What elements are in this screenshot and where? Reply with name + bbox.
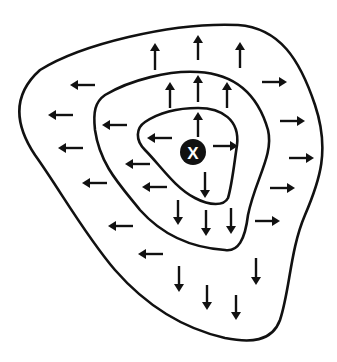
- arrow-down-icon: [173, 200, 183, 225]
- arrow-left-icon: [70, 80, 95, 90]
- arrow-up-icon: [193, 75, 203, 102]
- contour-diagram: X: [0, 0, 337, 362]
- arrow-down-icon: [251, 258, 261, 285]
- arrow-left-icon: [147, 133, 172, 143]
- arrow-left-icon: [102, 120, 127, 130]
- arrow-down-icon: [200, 172, 210, 198]
- arrow-down-icon: [202, 285, 212, 310]
- arrow-down-icon: [201, 210, 211, 236]
- arrow-up-icon: [193, 35, 203, 60]
- arrow-right-icon: [280, 116, 305, 126]
- arrow-right-icon: [213, 141, 238, 151]
- arrow-down-icon: [174, 266, 184, 292]
- arrow-down-icon: [231, 295, 241, 320]
- arrow-left-icon: [58, 143, 83, 153]
- middle-contour: [94, 72, 269, 250]
- arrow-up-icon: [193, 112, 203, 137]
- arrow-right-icon: [289, 153, 314, 163]
- arrow-down-icon: [226, 208, 236, 234]
- center-marker: X: [180, 139, 206, 165]
- arrow-left-icon: [108, 221, 133, 231]
- arrow-left-icon: [142, 182, 167, 192]
- arrow-left-icon: [48, 110, 73, 120]
- diagram-canvas: X: [0, 0, 337, 362]
- contour-lines: [19, 25, 322, 341]
- arrow-right-icon: [262, 77, 287, 87]
- arrow-up-icon: [165, 82, 175, 108]
- arrow-right-icon: [255, 216, 280, 226]
- arrow-left-icon: [82, 178, 107, 188]
- arrow-up-icon: [235, 42, 245, 68]
- arrow-up-icon: [222, 82, 232, 108]
- arrow-left-icon: [125, 159, 150, 169]
- arrow-right-icon: [270, 183, 295, 193]
- flow-arrows: [48, 35, 314, 320]
- center-label: X: [187, 144, 199, 163]
- arrow-left-icon: [138, 249, 163, 259]
- arrow-up-icon: [150, 43, 160, 70]
